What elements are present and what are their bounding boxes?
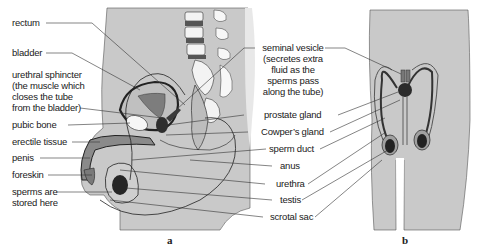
label-rectum: rectum — [12, 17, 40, 28]
male-reproductive-system-figure: rectum bladder urethral sphincter (the m… — [0, 0, 480, 249]
label-scrotal-sac: scrotal sac — [270, 211, 313, 222]
label-seminal-vesicle-desc: (secretes extra — [258, 53, 328, 64]
label-anus: anus — [280, 160, 300, 171]
label-foreskin: foreskin — [12, 169, 44, 180]
label-urethra: urethra — [276, 178, 305, 189]
anatomy-illustration — [0, 0, 480, 249]
label-sperms-stored: sperms are — [12, 186, 58, 197]
label-seminal-vesicle-desc: along the tube) — [258, 86, 328, 97]
label-seminal-vesicle: seminal vesicle (secretes extra fluid as… — [258, 42, 328, 97]
label-urethral-sphincter-desc: closes the tube — [12, 91, 73, 102]
panel-a-caption: a — [167, 234, 173, 246]
label-urethral-sphincter: urethral sphincter — [12, 69, 82, 80]
label-urethral-sphincter-desc: from the bladder) — [12, 102, 81, 113]
panel-b-caption: b — [402, 234, 408, 246]
label-sperm-duct: sperm duct — [269, 143, 314, 154]
label-urethral-sphincter-desc: (the muscle which — [12, 80, 85, 91]
panel-b-front-view — [369, 10, 470, 230]
label-sperms-stored: stored here — [12, 197, 58, 208]
label-bladder: bladder — [12, 47, 42, 58]
label-seminal-vesicle-desc: sperms pass — [258, 75, 328, 86]
label-testis: testis — [280, 194, 301, 205]
label-seminal-vesicle-desc: fluid as the — [258, 64, 328, 75]
label-prostate-gland: prostate gland — [264, 109, 321, 120]
label-seminal-vesicle-title: seminal vesicle — [258, 42, 328, 53]
label-cowpers-gland: Cowper’s gland — [261, 126, 324, 137]
label-pubic-bone: pubic bone — [12, 119, 56, 130]
label-erectile-tissue: erectile tissue — [12, 136, 67, 147]
label-penis: penis — [12, 152, 34, 163]
